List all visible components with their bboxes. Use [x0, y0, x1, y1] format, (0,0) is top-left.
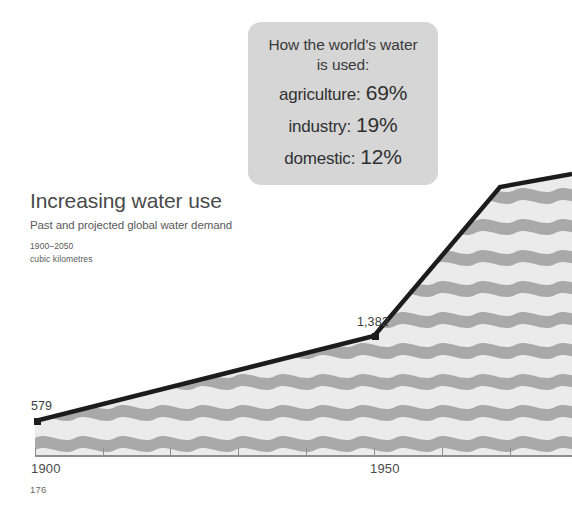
- callout-value-industry: 19%: [356, 113, 397, 136]
- x-axis-tick: [306, 448, 307, 456]
- page-title: Increasing water use: [30, 190, 260, 212]
- page-subtitle: Past and projected global water demand: [30, 219, 260, 231]
- x-axis-label-1900: 1900: [31, 461, 61, 476]
- data-point-marker-1900: [34, 418, 41, 425]
- callout-category-agriculture: agriculture:: [279, 85, 361, 104]
- callout-value-agriculture: 69%: [366, 81, 407, 104]
- page-number: 176: [30, 484, 46, 495]
- callout-row-domestic: domestic: 12%: [248, 142, 438, 172]
- callout-category-domestic: domestic:: [284, 149, 355, 168]
- x-axis-label-1950: 1950: [370, 461, 400, 476]
- x-axis-tick: [170, 448, 171, 456]
- x-axis-tick: [510, 448, 511, 456]
- callout-row-industry: industry: 19%: [248, 110, 438, 140]
- water-use-callout-box: How the world's water is used: agricultu…: [248, 22, 438, 185]
- x-axis-tick: [35, 448, 36, 456]
- callout-row-agriculture: agriculture: 69%: [248, 78, 438, 108]
- x-axis-line: [35, 455, 572, 457]
- data-point-label-1900: 579: [31, 399, 52, 413]
- x-axis-tick: [374, 448, 375, 456]
- x-axis-tick: [238, 448, 239, 456]
- units-note: cubic kilometres: [30, 253, 260, 266]
- callout-heading-line-2: is used:: [248, 55, 438, 75]
- data-point-label-1950: 1,382: [357, 315, 389, 329]
- callout-value-domestic: 12%: [360, 145, 401, 168]
- title-block: Increasing water use Past and projected …: [30, 190, 260, 266]
- infographic-page: 1900 1950 579 1,382 Increasing water use…: [0, 0, 572, 506]
- callout-category-industry: industry:: [289, 117, 351, 136]
- x-axis-tick: [103, 448, 104, 456]
- data-point-marker-1950: [372, 333, 379, 340]
- x-axis-tick: [442, 448, 443, 456]
- callout-heading-line-1: How the world's water: [248, 35, 438, 55]
- year-range-note: 1900–2050: [30, 240, 260, 253]
